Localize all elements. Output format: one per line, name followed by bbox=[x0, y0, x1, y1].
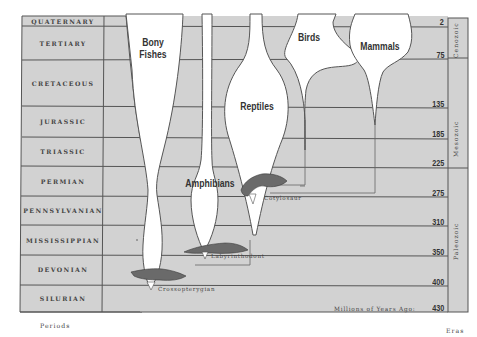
lineage-label-bony-fishes: Bony Fishes bbox=[137, 36, 170, 60]
mya-value: 275 bbox=[432, 188, 444, 198]
era-cenozoic: Cenozoic bbox=[452, 24, 459, 58]
period-label-permian: PERMIAN bbox=[22, 178, 104, 185]
period-label-quaternary: QUATERNARY bbox=[22, 18, 104, 25]
mya-caption: Millions of Years Ago: bbox=[334, 306, 416, 312]
period-label-triassic: TRIASSIC bbox=[22, 148, 104, 155]
animal-label-cotylosaur: Cotylosaur bbox=[264, 195, 302, 201]
mya-value: 185 bbox=[432, 129, 444, 139]
periods-footer: Periods bbox=[40, 322, 70, 329]
mya-value: 2 bbox=[440, 17, 444, 27]
mya-value: 430 bbox=[432, 303, 444, 313]
lineage-label-mammals: Mammals bbox=[355, 40, 404, 52]
period-label-pennsylvanian: PENNSYLVANIAN bbox=[22, 207, 104, 214]
mya-value: 350 bbox=[432, 247, 444, 257]
period-label-devonian: DEVONIAN bbox=[22, 266, 104, 273]
evolution-diagram: QUATERNARY TERTIARY CRETACEOUS JURASSIC … bbox=[0, 0, 477, 337]
period-label-tertiary: TERTIARY bbox=[22, 40, 104, 47]
period-label-mississippian: MISSISSIPPIAN bbox=[22, 237, 104, 244]
period-label-jurassic: JURASSIC bbox=[22, 118, 104, 125]
mya-value: 310 bbox=[432, 217, 444, 227]
period-label-cretaceous: CRETACEOUS bbox=[22, 80, 104, 87]
mya-value: 400 bbox=[432, 277, 444, 287]
mya-value: 135 bbox=[432, 99, 444, 109]
mya-value: 225 bbox=[432, 158, 444, 168]
mya-value: 75 bbox=[436, 50, 444, 60]
lineage-label-reptiles: Reptiles bbox=[237, 100, 278, 112]
diagram-graphic bbox=[0, 0, 477, 337]
era-paleozoic: Paleozoic bbox=[452, 170, 459, 312]
lineage-label-birds: Birds bbox=[293, 31, 326, 43]
era-mesozoic: Mesozoic bbox=[452, 110, 459, 168]
animal-label-labyrinthodont: Labyrinthodont bbox=[211, 253, 265, 259]
period-label-silurian: SILURIAN bbox=[22, 295, 104, 302]
eras-footer: Eras bbox=[446, 327, 464, 334]
lineage-label-amphibians: Amphibians bbox=[177, 177, 243, 189]
animal-label-crossopterygian: Crossopterygian bbox=[158, 286, 215, 292]
